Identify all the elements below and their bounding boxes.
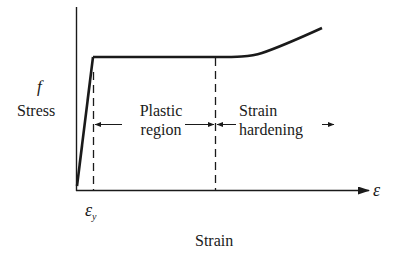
elastic-segment [77,57,93,186]
stress-strain-diagram [0,0,414,262]
hardening-region-label-line2: hardening [239,122,303,138]
plastic-region-label-line1: Plastic [129,103,193,119]
hardening-region-label-line1: Strain [239,103,277,119]
strain-hardening-curve [216,28,322,57]
y-axis-symbol: f [37,78,42,95]
yield-strain-subscript: y [92,211,96,222]
yield-strain-label: εy [85,201,97,222]
x-axis-symbol: ε [373,181,380,199]
x-axis-label: Strain [195,233,233,249]
plastic-region-label-line2: region [129,122,193,138]
y-axis-label: Stress [17,103,55,119]
